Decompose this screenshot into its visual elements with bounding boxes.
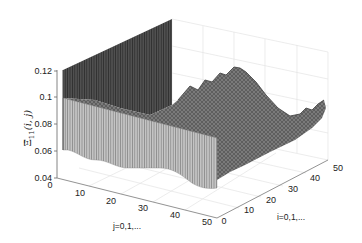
j-tick-30: 30 — [138, 203, 148, 213]
j-tick-20: 20 — [106, 196, 116, 206]
i-tick-10: 10 — [244, 205, 254, 215]
z-tick-0.1: 0.1 — [39, 92, 52, 102]
z-axis: 0.12 0.1 0.08 0.06 0.04 — [34, 66, 57, 183]
i-tick-50: 50 — [333, 163, 343, 173]
z-tick-0.08: 0.08 — [34, 119, 52, 129]
z-tick-0.12: 0.12 — [34, 66, 52, 76]
j-tick-0: 0 — [47, 180, 52, 190]
i-axis: 0 10 20 30 40 50 i=0,1,... — [217, 160, 343, 226]
i-tick-20: 20 — [266, 195, 276, 205]
i-tick-30: 30 — [288, 184, 298, 194]
i-axis-label: i=0,1,... — [277, 212, 305, 222]
j-axis-label: j=0,1,... — [112, 221, 141, 231]
i-tick-40: 40 — [310, 173, 320, 183]
j-axis: 0 10 20 30 40 50 j=0,1,... — [47, 178, 217, 231]
surface-plot: 0.12 0.1 0.08 0.06 0.04 Ξ̄11(i, j) 0 10 … — [0, 0, 362, 243]
j-tick-40: 40 — [170, 210, 180, 220]
z-label-args: (i, j) — [22, 110, 33, 131]
z-label-sub: 11 — [28, 130, 36, 139]
i-tick-0: 0 — [221, 216, 226, 226]
j-tick-10: 10 — [75, 188, 85, 198]
z-tick-0.06: 0.06 — [34, 146, 52, 156]
j-tick-50: 50 — [202, 217, 212, 227]
z-label-main: Ξ̄ — [22, 139, 33, 146]
